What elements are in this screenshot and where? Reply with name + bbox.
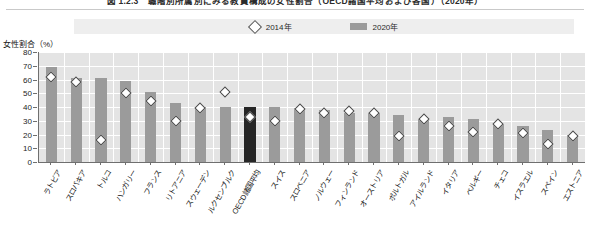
y-axis-tick-label: 20: [0, 130, 32, 139]
x-axis-category-label: リトアニア: [161, 168, 188, 203]
vertical-gridline: [188, 52, 189, 162]
bar: [344, 113, 355, 163]
x-axis-category-label: ラトビア: [41, 168, 64, 197]
x-axis-category-label: イスラエル: [509, 168, 536, 203]
chart-legend: 2014年 2020年: [74, 19, 574, 34]
vertical-gridline: [560, 52, 561, 162]
y-axis-tick-mark: [33, 135, 37, 136]
vertical-gridline: [89, 52, 90, 162]
data-point-marker: [219, 86, 230, 97]
vertical-gridline: [411, 52, 412, 162]
x-axis-category-label: チェコ: [491, 168, 511, 191]
diamond-outline-icon: [248, 19, 262, 33]
y-axis-tick-label: 80: [0, 48, 32, 57]
y-axis-tick-mark: [33, 66, 37, 67]
vertical-gridline: [436, 52, 437, 162]
x-axis-tick-mark: [448, 162, 449, 165]
y-axis-tick-label: 60: [0, 75, 32, 84]
y-axis-tick-label: 0: [0, 158, 32, 167]
legend-label-2020: 2020年: [373, 21, 399, 32]
vertical-gridline: [461, 52, 462, 162]
bar: [368, 113, 379, 163]
y-axis-tick-label: 70: [0, 61, 32, 70]
plot-area: [38, 52, 585, 163]
vertical-gridline: [287, 52, 288, 162]
y-axis-tick-mark: [33, 148, 37, 149]
x-axis-tick-mark: [398, 162, 399, 165]
bar: [195, 107, 206, 162]
bar: [418, 119, 429, 162]
x-axis-tick-mark: [472, 162, 473, 165]
x-axis-category-label: ノルウェー: [310, 168, 337, 203]
bar: [95, 78, 106, 162]
figure-container: 図 1.2.3 職階別所属別にみる教員構成の女性割合（OECD諸国平均および各国…: [0, 0, 590, 243]
vertical-gridline: [511, 52, 512, 162]
vertical-gridline: [138, 52, 139, 162]
vertical-gridline: [64, 52, 65, 162]
x-axis-tick-mark: [348, 162, 349, 165]
y-axis-tick-mark: [33, 162, 37, 163]
y-axis-tick-label: 50: [0, 89, 32, 98]
vertical-gridline: [337, 52, 338, 162]
x-axis-tick-mark: [249, 162, 250, 165]
bar: [220, 107, 231, 162]
x-axis-tick-mark: [572, 162, 573, 165]
x-axis-tick-mark: [299, 162, 300, 165]
vertical-gridline: [213, 52, 214, 162]
y-axis-tick-label: 40: [0, 103, 32, 112]
y-axis-tick-label: 30: [0, 116, 32, 125]
x-axis-tick-mark: [522, 162, 523, 165]
x-axis-tick-mark: [547, 162, 548, 165]
bar: [71, 78, 82, 162]
x-axis-tick-mark: [125, 162, 126, 165]
bar: [170, 103, 181, 162]
bar-swatch-icon: [350, 23, 367, 30]
x-axis-tick-mark: [497, 162, 498, 165]
x-axis-category-label: スイス: [267, 168, 287, 191]
x-axis-category-label: フランス: [140, 168, 163, 197]
x-axis-tick-mark: [323, 162, 324, 165]
x-axis-category-label: ハンガリー: [112, 168, 139, 203]
legend-item-2020: 2020年: [350, 21, 399, 32]
figure-title: 図 1.2.3 職階別所属別にみる教員構成の女性割合（OECD諸国平均および各国…: [0, 0, 590, 5]
y-axis-tick-mark: [33, 93, 37, 94]
x-axis-tick-mark: [373, 162, 374, 165]
vertical-gridline: [238, 52, 239, 162]
y-axis-tick-mark: [33, 80, 37, 81]
x-axis-tick-mark: [100, 162, 101, 165]
legend-item-2014: 2014年: [250, 21, 292, 32]
y-axis-tick-label: 10: [0, 144, 32, 153]
vertical-gridline: [535, 52, 536, 162]
y-axis-tick-mark: [33, 52, 37, 53]
vertical-gridline: [163, 52, 164, 162]
x-axis-tick-mark: [50, 162, 51, 165]
x-axis-category-label: ポルトガル: [385, 168, 412, 203]
x-axis-tick-mark: [224, 162, 225, 165]
x-axis-tick-mark: [274, 162, 275, 165]
vertical-gridline: [362, 52, 363, 162]
x-axis-tick-mark: [75, 162, 76, 165]
vertical-gridline: [386, 52, 387, 162]
x-axis-tick-mark: [150, 162, 151, 165]
x-axis-category-label: スペイン: [537, 168, 560, 197]
vertical-gridline: [486, 52, 487, 162]
y-axis-tick-mark: [33, 107, 37, 108]
x-axis-category-label: イタリア: [438, 168, 461, 197]
x-axis-category-label: スロベニア: [285, 168, 312, 203]
title-divider: [6, 9, 584, 10]
x-axis-tick-mark: [199, 162, 200, 165]
x-axis-tick-mark: [423, 162, 424, 165]
vertical-gridline: [312, 52, 313, 162]
x-axis-category-label: スロバキア: [62, 168, 89, 203]
vertical-gridline: [262, 52, 263, 162]
x-axis-category-label: トルコ: [94, 168, 114, 191]
y-axis-tick-mark: [33, 121, 37, 122]
x-axis-tick-mark: [175, 162, 176, 165]
vertical-gridline: [113, 52, 114, 162]
x-axis-category-label: エストニア: [558, 168, 585, 203]
x-axis-category-label: ベルギー: [463, 168, 486, 197]
legend-label-2014: 2014年: [266, 21, 292, 32]
bar: [294, 108, 305, 162]
